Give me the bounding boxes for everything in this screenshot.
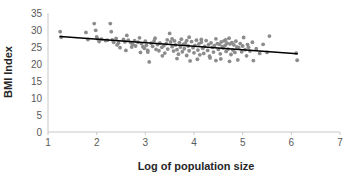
- data-point: [165, 38, 169, 42]
- data-point: [172, 49, 176, 53]
- data-point: [188, 59, 192, 63]
- data-point: [94, 28, 98, 32]
- data-point: [241, 44, 245, 48]
- data-point: [261, 42, 265, 46]
- data-point: [206, 49, 210, 53]
- data-point: [109, 30, 113, 34]
- data-point: [182, 47, 186, 51]
- data-point: [228, 59, 232, 63]
- y-tick-30: 30: [31, 25, 43, 36]
- data-point: [196, 48, 200, 52]
- data-point: [295, 58, 299, 62]
- y-tick-25: 25: [31, 42, 43, 53]
- data-point: [196, 57, 200, 61]
- data-point: [178, 41, 182, 45]
- data-point: [118, 46, 122, 50]
- x-tick-5: 5: [240, 137, 246, 148]
- data-point: [115, 43, 119, 47]
- data-point: [214, 59, 218, 63]
- data-point: [168, 32, 172, 36]
- x-axis-tick-labels: 1234567: [45, 137, 343, 148]
- y-axis-title: BMI Index: [2, 45, 14, 98]
- x-tick-7: 7: [337, 137, 343, 148]
- data-point: [192, 51, 196, 55]
- data-point: [190, 40, 194, 44]
- data-point: [177, 52, 181, 56]
- data-point: [233, 51, 237, 55]
- data-point: [227, 36, 231, 40]
- data-point: [202, 52, 206, 56]
- data-point: [134, 44, 138, 48]
- data-point: [175, 48, 179, 52]
- x-tick-3: 3: [143, 137, 149, 148]
- data-point: [153, 36, 157, 40]
- data-point: [187, 49, 191, 53]
- data-point: [147, 60, 151, 64]
- data-point: [245, 54, 249, 58]
- y-tick-0: 0: [36, 127, 42, 138]
- data-point: [139, 51, 143, 55]
- data-point: [234, 39, 238, 43]
- data-point: [185, 39, 189, 43]
- chart-canvas: 05101520253035 1234567 Log of population…: [0, 0, 349, 175]
- data-point: [219, 57, 223, 61]
- data-point: [170, 37, 174, 41]
- data-point: [214, 37, 218, 41]
- data-point: [130, 45, 134, 49]
- data-point: [125, 34, 129, 38]
- data-point: [251, 40, 255, 44]
- data-point: [160, 54, 164, 58]
- data-point: [198, 53, 202, 57]
- x-tick-1: 1: [45, 137, 51, 148]
- data-point: [242, 36, 246, 40]
- y-tick-35: 35: [31, 8, 43, 19]
- axis-lines: [48, 13, 340, 135]
- x-axis-title: Log of population size: [138, 160, 255, 172]
- data-point: [157, 49, 161, 53]
- data-point: [187, 35, 191, 39]
- x-tick-2: 2: [94, 137, 100, 148]
- x-tick-4: 4: [191, 137, 197, 148]
- data-point: [258, 52, 262, 56]
- data-point: [108, 22, 112, 26]
- data-point: [151, 44, 155, 48]
- y-axis-tick-labels: 05101520253035: [31, 8, 43, 138]
- x-tick-6: 6: [289, 137, 295, 148]
- data-point: [209, 41, 213, 45]
- data-point: [268, 34, 272, 38]
- data-point: [144, 43, 148, 47]
- data-point: [229, 53, 233, 57]
- data-point: [247, 45, 251, 49]
- data-point: [195, 38, 199, 42]
- data-point: [218, 52, 222, 56]
- data-point: [175, 57, 179, 61]
- y-tick-10: 10: [31, 93, 43, 104]
- data-points: [58, 22, 299, 64]
- data-point: [185, 54, 189, 58]
- data-point: [212, 50, 216, 54]
- data-point: [224, 38, 228, 42]
- data-point: [251, 59, 255, 63]
- data-point: [84, 30, 88, 34]
- data-point: [124, 49, 128, 53]
- data-point: [208, 56, 212, 60]
- data-point: [146, 49, 150, 53]
- data-point: [199, 38, 203, 42]
- data-point: [92, 22, 96, 26]
- y-tick-15: 15: [31, 76, 43, 87]
- data-point: [236, 58, 240, 62]
- y-tick-5: 5: [36, 110, 42, 121]
- data-point: [166, 47, 170, 51]
- y-tick-20: 20: [31, 59, 43, 70]
- data-point: [179, 37, 183, 41]
- data-point: [58, 30, 62, 34]
- data-point: [204, 39, 208, 43]
- scatter-chart: 05101520253035 1234567 Log of population…: [0, 0, 349, 175]
- data-point: [138, 36, 142, 40]
